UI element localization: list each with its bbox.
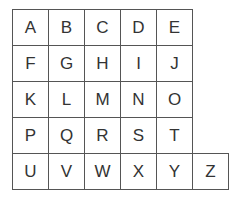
grid-cell: F [12,45,49,82]
grid-cell: K [12,81,49,118]
grid-cell: M [84,81,121,118]
grid-cell: V [48,153,85,190]
grid-cell: E [156,9,193,46]
grid-cell: J [156,45,193,82]
grid-cell: N [120,81,157,118]
grid-cell: G [48,45,85,82]
grid-cell: Y [156,153,193,190]
grid-cell: X [120,153,157,190]
grid-cell: Q [48,117,85,154]
grid-cell: Z [192,153,229,190]
grid-cell: C [84,9,121,46]
grid-cell: T [156,117,193,154]
grid-cell: B [48,9,85,46]
grid-cell: U [12,153,49,190]
grid-cell: W [84,153,121,190]
grid-cell: A [12,9,49,46]
grid-cell: S [120,117,157,154]
grid-cell: L [48,81,85,118]
grid-cell: P [12,117,49,154]
grid-cell: D [120,9,157,46]
grid-cell: H [84,45,121,82]
grid-cell: R [84,117,121,154]
grid-cell: I [120,45,157,82]
grid-cell: O [156,81,193,118]
